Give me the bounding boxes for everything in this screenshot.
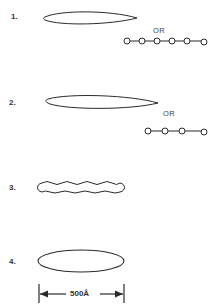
- lens-shape-1: [44, 12, 138, 24]
- item-number-1: 1.: [11, 12, 18, 21]
- item-number-4: 4.: [9, 257, 16, 266]
- or-label-1: OR: [153, 26, 165, 35]
- ellipsoid-shape: [38, 250, 124, 272]
- item-number-3: 3.: [9, 183, 16, 192]
- bead-chain-1: [124, 38, 207, 45]
- scale-bar-label: 500Å: [69, 289, 90, 298]
- bead-chain-2: [145, 128, 207, 135]
- lens-shape-2: [46, 96, 158, 109]
- wavy-rod-shape: [38, 182, 125, 194]
- item-number-2: 2.: [9, 98, 16, 107]
- figure-canvas: [0, 0, 219, 308]
- or-label-2: OR: [163, 109, 175, 118]
